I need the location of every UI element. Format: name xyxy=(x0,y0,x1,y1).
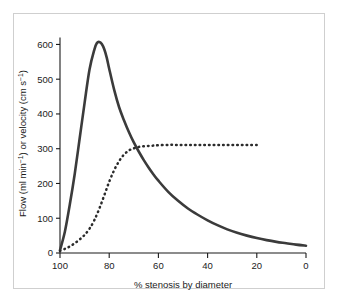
x-axis-ticks: 100806040200 xyxy=(52,253,309,271)
x-tick-label: 20 xyxy=(252,260,263,271)
x-tick-label: 60 xyxy=(153,260,164,271)
figure-container: 0100200300400500600 100806040200 % steno… xyxy=(0,0,338,302)
x-tick-label: 80 xyxy=(104,260,115,271)
stenosis-flow-velocity-chart: 0100200300400500600 100806040200 % steno… xyxy=(0,0,338,302)
x-tick-label: 100 xyxy=(52,260,68,271)
y-tick-label: 200 xyxy=(37,178,53,189)
y-tick-label: 100 xyxy=(37,213,53,224)
y-axis-title: Flow (ml min−1) or velocity (cm s−1) xyxy=(17,70,29,217)
y-tick-label: 400 xyxy=(37,108,53,119)
x-tick-label: 0 xyxy=(303,260,308,271)
y-tick-label: 0 xyxy=(48,247,53,258)
x-tick-label: 40 xyxy=(202,260,213,271)
series-velocity-curve xyxy=(60,145,259,251)
x-axis-title: % stenosis by diameter xyxy=(134,279,232,290)
y-tick-label: 600 xyxy=(37,39,53,50)
y-axis-ticks: 0100200300400500600 xyxy=(37,39,60,259)
y-tick-label: 300 xyxy=(37,143,53,154)
series-flow-curve xyxy=(60,42,306,250)
y-tick-label: 500 xyxy=(37,74,53,85)
